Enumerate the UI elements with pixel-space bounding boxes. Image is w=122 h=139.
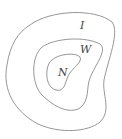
middle-region-curve <box>34 39 103 110</box>
region-label-n: N <box>58 67 68 78</box>
region-label-i: I <box>80 20 84 31</box>
nested-regions-diagram: I W N <box>0 0 122 139</box>
region-label-w: W <box>80 44 91 55</box>
